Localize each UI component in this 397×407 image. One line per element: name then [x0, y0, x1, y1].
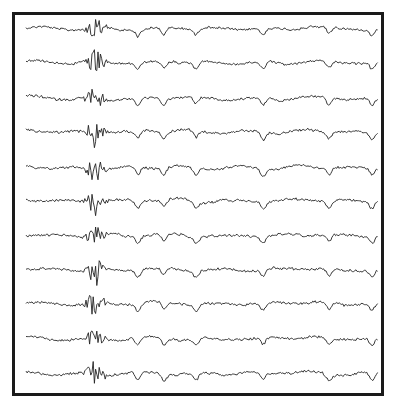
eeg-figure	[0, 0, 397, 407]
channel-7-trace	[26, 227, 378, 244]
channel-4-trace	[26, 124, 378, 147]
channel-10-trace	[26, 331, 378, 346]
channel-9-trace	[26, 295, 378, 314]
channel-2-trace	[26, 50, 378, 71]
channel-6-trace	[26, 194, 378, 215]
channel-1-trace	[26, 20, 378, 38]
channel-5-trace	[26, 162, 378, 180]
channel-3-trace	[26, 89, 378, 106]
channel-8-trace	[26, 261, 378, 286]
eeg-traces	[0, 0, 397, 407]
channel-11-trace	[26, 362, 378, 384]
